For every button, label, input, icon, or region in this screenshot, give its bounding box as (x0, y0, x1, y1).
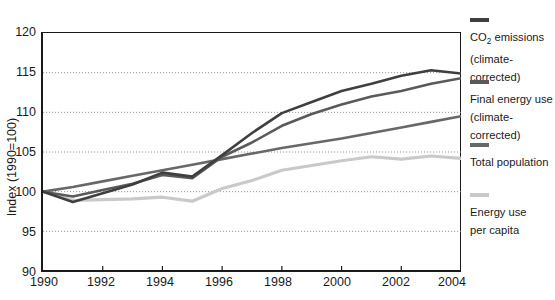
chart-legend: CO2 emissions(climate-corrected) Final e… (470, 18, 555, 258)
chart-svg (43, 33, 461, 271)
y-tick-120: 120 (2, 25, 36, 39)
x-tick-1998: 1998 (264, 275, 292, 289)
legend-item-energy-use-per-capita: Energy use per capita (470, 193, 555, 238)
plot-area (41, 32, 461, 272)
legend-label-final-energy-use: Final energy use (climate-corrected) (470, 93, 553, 141)
legend-swatch-energy-use-per-capita (470, 193, 489, 197)
legend-item-co2-emissions: CO2 emissions(climate-corrected) (470, 18, 555, 85)
x-tick-2000: 2000 (323, 275, 351, 289)
legend-label-co2-emissions: CO2 emissions(climate-corrected) (470, 31, 544, 83)
legend-swatch-total-population (470, 143, 489, 147)
x-tick-1990: 1990 (30, 275, 58, 289)
x-tick-2002: 2002 (382, 275, 410, 289)
legend-item-total-population: Total population (470, 143, 555, 170)
x-tick-1994: 1994 (146, 275, 174, 289)
chart-title-clipped: Development of energy use, CO₂ emissions… (0, 0, 555, 2)
legend-label-energy-use-per-capita: Energy use per capita (470, 206, 527, 236)
series-line-energy-use-per-capita (43, 156, 461, 201)
legend-swatch-co2-emissions (470, 18, 489, 22)
y-tick-110: 110 (2, 105, 36, 119)
legend-item-final-energy-use: Final energy use (climate-corrected) (470, 80, 555, 143)
x-tick-2004: 2004 (438, 275, 466, 289)
legend-swatch-final-energy-use (470, 80, 489, 84)
chart-figure: Development of energy use, CO₂ emissions… (0, 0, 555, 300)
y-tick-100: 100 (2, 185, 36, 199)
y-tick-115: 115 (2, 65, 36, 79)
series-line-final-energy-use-climate-corrected (43, 78, 461, 196)
y-tick-105: 105 (2, 145, 36, 159)
legend-label-total-population: Total population (470, 156, 548, 168)
plot-canvas (43, 33, 460, 270)
y-tick-95: 95 (2, 225, 36, 239)
x-tick-1992: 1992 (87, 275, 115, 289)
series-line-co2-emissions-climate-corrected (43, 70, 461, 202)
y-axis-ticks: 120 115 110 105 100 95 90 (0, 0, 36, 300)
x-tick-1996: 1996 (205, 275, 233, 289)
